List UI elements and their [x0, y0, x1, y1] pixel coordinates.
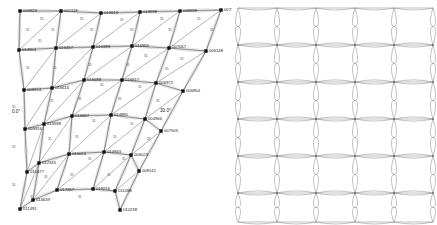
reference-node — [315, 118, 317, 120]
mesh-node[interactable] — [167, 46, 170, 49]
angle-annotation: 30.0° — [160, 108, 171, 113]
mesh-node[interactable] — [42, 122, 45, 125]
reference-lens — [238, 117, 277, 119]
element-id-label: 35 — [160, 17, 164, 21]
mesh-edge — [69, 116, 72, 154]
mesh-node[interactable] — [219, 8, 222, 11]
element-id-label: 35 — [122, 157, 126, 161]
reference-strand — [391, 156, 396, 193]
mesh-node[interactable] — [22, 88, 25, 91]
reference-lens — [394, 119, 433, 121]
mesh-node[interactable] — [204, 49, 207, 52]
reference-lens — [277, 119, 316, 121]
mesh-node[interactable] — [138, 10, 141, 13]
reference-strand — [430, 156, 435, 193]
mesh-node[interactable] — [99, 11, 102, 14]
mesh-node[interactable] — [137, 169, 140, 172]
mesh-node[interactable] — [159, 129, 162, 132]
element-id-label: 35 — [48, 137, 52, 141]
element-id-label: 35 — [92, 119, 96, 123]
mesh-node[interactable] — [120, 78, 123, 81]
node-id-label: 006023 — [134, 152, 149, 157]
mesh-node[interactable] — [113, 189, 116, 192]
mesh-node[interactable] — [67, 152, 70, 155]
element-id-label: 35 — [12, 183, 16, 187]
node-id-label: 006148 — [209, 48, 224, 53]
reference-lens — [277, 156, 316, 158]
element-id-label: 35 — [197, 17, 201, 21]
node-id-label: 007057 — [172, 44, 187, 49]
reference-strand — [391, 82, 396, 119]
element-id-label: 35 — [130, 28, 134, 32]
mesh-node[interactable] — [91, 45, 94, 48]
reference-node — [315, 81, 317, 83]
mesh-node[interactable] — [18, 207, 21, 210]
mesh-node[interactable] — [109, 113, 112, 116]
mesh-element-group — [19, 10, 221, 210]
reference-node — [354, 81, 356, 83]
element-id-label: 35 — [44, 175, 48, 179]
mesh-edge — [156, 48, 169, 83]
reference-rail-wave — [316, 8, 355, 10]
mesh-node[interactable] — [50, 86, 53, 89]
mesh-node[interactable] — [54, 46, 57, 49]
node-id-label: 007701 — [224, 7, 232, 12]
reference-lens — [238, 82, 277, 84]
reference-lens — [316, 191, 355, 193]
mesh-node[interactable] — [55, 188, 58, 191]
reference-strand — [235, 8, 240, 45]
reference-node — [393, 81, 395, 83]
reference-node — [315, 192, 317, 194]
reference-node — [276, 155, 278, 157]
mesh-node[interactable] — [23, 127, 26, 130]
reference-strand — [274, 156, 279, 193]
reference-lens — [394, 154, 433, 156]
mesh-edge — [57, 154, 69, 190]
reference-strand — [391, 193, 396, 222]
mesh-node[interactable] — [102, 150, 105, 153]
reference-lens — [316, 119, 355, 121]
deformed-mesh-svg: 0068240071180166130186980085980077010149… — [0, 0, 232, 225]
mesh-node[interactable] — [129, 153, 132, 156]
reference-lens — [277, 154, 316, 156]
mesh-edge — [145, 83, 156, 119]
reference-rail-wave — [277, 222, 316, 224]
mesh-node[interactable] — [181, 89, 184, 92]
mesh-node[interactable] — [37, 161, 40, 164]
mesh-node[interactable] — [178, 9, 181, 12]
mesh-node[interactable] — [82, 78, 85, 81]
reference-strand — [313, 156, 318, 193]
figure-container: 0068240071180166130186980085980077010149… — [0, 0, 437, 225]
element-id-label: 35 — [38, 39, 42, 43]
reference-node — [276, 118, 278, 120]
element-id-label: 35 — [53, 66, 57, 70]
mesh-node[interactable] — [70, 114, 73, 117]
mesh-node[interactable] — [154, 81, 157, 84]
mesh-edge — [183, 51, 206, 91]
node-id-label: 010238 — [123, 207, 138, 212]
reference-node — [393, 192, 395, 194]
mesh-edge — [20, 172, 27, 209]
reference-lens — [355, 119, 394, 121]
reference-node — [354, 44, 356, 46]
reference-lens — [355, 117, 394, 119]
mesh-node[interactable] — [130, 44, 133, 47]
node-id-label: 008598 — [183, 8, 198, 13]
node-id-label: 016965 — [135, 43, 150, 48]
deformed-mesh-panel: 0068240071180166130186980085980077010149… — [0, 0, 232, 225]
reference-lens — [316, 45, 355, 47]
reference-node — [432, 155, 434, 157]
mesh-node[interactable] — [25, 170, 28, 173]
mesh-node[interactable] — [143, 117, 146, 120]
reference-lens — [394, 45, 433, 47]
reference-strand — [313, 82, 318, 119]
reference-mesh-svg — [232, 0, 437, 225]
mesh-node[interactable] — [59, 9, 62, 12]
mesh-node[interactable] — [91, 187, 94, 190]
mesh-node[interactable] — [118, 208, 121, 211]
mesh-node[interactable] — [18, 9, 21, 12]
reference-strand — [352, 119, 357, 156]
node-id-label: 016667 — [75, 113, 90, 118]
reference-lens — [277, 191, 316, 193]
mesh-node[interactable] — [17, 48, 20, 51]
